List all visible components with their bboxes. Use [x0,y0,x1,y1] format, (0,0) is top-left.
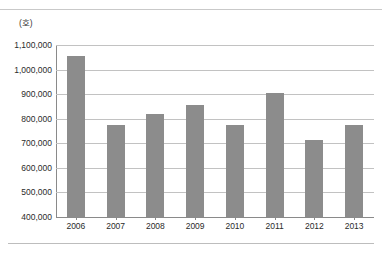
x-tick-mark [76,217,77,220]
x-tick-mark [235,217,236,220]
y-tick-label: 1,100,000 [14,40,52,50]
x-tick-label: 2009 [186,221,205,231]
x-tick-label: 2013 [345,221,364,231]
x-tick-label: 2010 [225,221,244,231]
y-tick-label: 1,000,000 [14,65,52,75]
bar [186,105,204,217]
plot-area [56,45,374,217]
chart-page: ᅟ ᅟ ᅟ ᅟ ᅟ ᅟ ᅟ (호) 400,000500,000600,0007… [0,0,382,254]
clipped-header-text: ᅟ ᅟ ᅟ ᅟ ᅟ ᅟ ᅟ [6,0,89,8]
bar [266,93,284,217]
x-tick-label: 2011 [265,221,283,231]
x-tick-mark [116,217,117,220]
x-tick-label: 2012 [305,221,324,231]
bottom-divider [8,243,374,244]
x-tick-label: 2008 [146,221,165,231]
x-tick-mark [314,217,315,220]
y-axis-labels: 400,000500,000600,000700,000800,000900,0… [0,45,52,217]
bar-series [56,45,374,217]
x-tick-mark [354,217,355,220]
x-tick-mark [155,217,156,220]
x-tick-mark [275,217,276,220]
x-tick-label: 2006 [66,221,85,231]
x-tick-mark [195,217,196,220]
bar [305,140,323,217]
y-tick-label: 500,000 [21,187,52,197]
bar [67,56,85,217]
clipped-header-strip: ᅟ ᅟ ᅟ ᅟ ᅟ ᅟ ᅟ [0,0,382,9]
x-axis-labels: 20062007200820092010201120122013 [56,221,374,235]
y-tick-label: 700,000 [21,138,52,148]
bar [345,125,363,217]
bar [226,125,244,217]
top-divider [0,9,382,10]
bar [146,114,164,217]
y-tick-label: 800,000 [21,114,52,124]
y-tick-label: 400,000 [21,212,52,222]
y-tick-label: 600,000 [21,163,52,173]
y-tick-label: 900,000 [21,89,52,99]
bar [107,125,125,217]
gridline [56,217,374,218]
unit-label: (호) [19,16,33,28]
x-tick-label: 2007 [106,221,125,231]
